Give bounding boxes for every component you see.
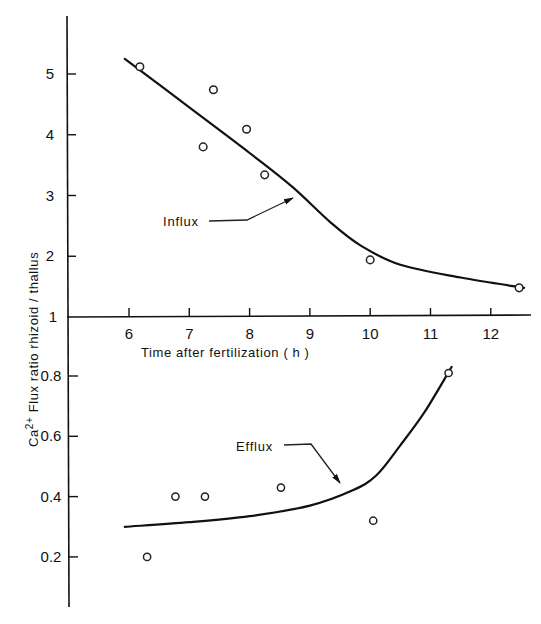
y-tick-label: 0.8 (41, 367, 62, 384)
y-axis (67, 16, 69, 607)
y-axis-label: Ca2+ Flux ratio rhizoid / thallus (24, 252, 41, 447)
y-tick-label: 0.6 (41, 427, 62, 444)
influx-arrow-icon (209, 198, 293, 221)
efflux-point (445, 369, 452, 376)
x-tick-label: 10 (362, 325, 379, 342)
x-ticks: 6789101112 (125, 308, 499, 342)
efflux-point (172, 493, 179, 500)
influx-y-ticks: 12345 (46, 65, 76, 325)
efflux-fit-curve (125, 367, 452, 527)
x-tick-label: 8 (245, 325, 253, 342)
x-axis-label: Time after fertilization ( h ) (141, 345, 310, 360)
y-tick-label: 0.2 (41, 548, 62, 565)
x-tick-label: 9 (306, 325, 314, 342)
flux-ratio-chart: 12345 0.20.40.60.8 6789101112 Influx Eff… (0, 0, 541, 624)
y-tick-label: 1 (49, 308, 57, 325)
influx-point (366, 256, 374, 264)
x-tick-label: 11 (423, 325, 439, 342)
y-tick-label: 5 (46, 65, 54, 82)
x-axis (67, 315, 531, 317)
influx-point (210, 86, 218, 94)
y-tick-label: 0.4 (41, 488, 62, 505)
y-label-sup: 2+ (24, 417, 35, 430)
influx-point (515, 284, 523, 292)
efflux-point (201, 493, 208, 500)
efflux-y-ticks: 0.20.40.60.8 (41, 367, 78, 565)
x-tick-label: 6 (125, 325, 133, 342)
influx-point (136, 63, 144, 71)
influx-point (261, 171, 269, 179)
influx-label: Influx (163, 214, 199, 229)
influx-point (199, 143, 207, 151)
influx-point (243, 125, 251, 133)
x-tick-label: 12 (482, 325, 499, 342)
y-tick-label: 2 (46, 247, 54, 264)
efflux-point (277, 484, 284, 491)
efflux-label: Efflux (236, 439, 273, 454)
influx-fit-curve (125, 59, 524, 288)
y-label-base: Ca (26, 429, 41, 447)
influx-data-points (136, 63, 523, 292)
x-tick-label: 7 (185, 325, 193, 342)
efflux-point (370, 517, 377, 524)
y-tick-label: 3 (46, 187, 54, 204)
y-label-rest: Flux ratio rhizoid / thallus (26, 252, 41, 417)
efflux-point (143, 553, 150, 560)
y-tick-label: 4 (46, 126, 54, 143)
efflux-data-points (143, 369, 452, 560)
efflux-arrow-icon (284, 444, 340, 483)
